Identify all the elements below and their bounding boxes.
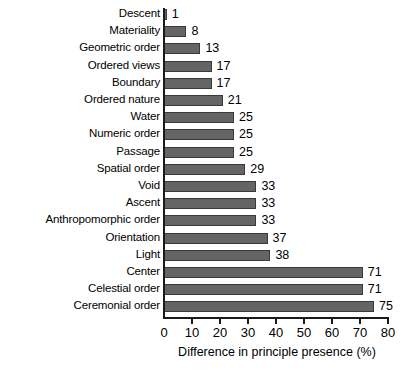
bar-row: 17 <box>164 61 388 72</box>
category-label: Center <box>0 266 160 277</box>
category-label: Materiality <box>0 25 160 36</box>
x-axis-tick <box>387 319 389 324</box>
x-axis-tick-label: 10 <box>177 325 207 340</box>
bar-value-label: 75 <box>379 300 393 313</box>
bar-value-label: 33 <box>261 197 275 210</box>
category-label: Orientation <box>0 232 160 243</box>
category-label: Spatial order <box>0 163 160 174</box>
bar-row: 8 <box>164 26 388 37</box>
x-axis-tick-label: 40 <box>261 325 291 340</box>
bar-row: 71 <box>164 284 388 295</box>
bar <box>164 250 270 261</box>
x-axis-tick <box>219 319 221 324</box>
bar <box>164 78 212 89</box>
bar <box>164 284 363 295</box>
plot-area: 1813171721252525293333333738717175 <box>164 8 388 318</box>
x-axis-tick <box>191 319 193 324</box>
x-axis-tick <box>247 319 249 324</box>
x-axis-tick <box>303 319 305 324</box>
category-label: Descent <box>0 8 160 19</box>
category-label: Numeric order <box>0 128 160 139</box>
bar-row: 75 <box>164 301 388 312</box>
x-axis-tick <box>359 319 361 324</box>
x-axis-tick <box>331 319 333 324</box>
bar <box>164 61 212 72</box>
category-label: Void <box>0 180 160 191</box>
category-axis: DescentMaterialityGeometric orderOrdered… <box>0 8 160 318</box>
bar-value-label: 13 <box>205 42 219 55</box>
bar-row: 29 <box>164 164 388 175</box>
bar <box>164 112 234 123</box>
bar-row: 25 <box>164 112 388 123</box>
category-label: Celestial order <box>0 283 160 294</box>
x-axis-tick-label: 80 <box>373 325 403 340</box>
bar-row: 25 <box>164 129 388 140</box>
category-label: Boundary <box>0 77 160 88</box>
x-axis-tick-label: 70 <box>345 325 375 340</box>
bar-value-label: 37 <box>273 232 287 245</box>
bar-row: 13 <box>164 43 388 54</box>
bar-row: 33 <box>164 181 388 192</box>
x-axis-tick-label: 30 <box>233 325 263 340</box>
bar-row: 17 <box>164 78 388 89</box>
bar-row: 33 <box>164 198 388 209</box>
x-axis-tick-label: 0 <box>149 325 179 340</box>
bar <box>164 233 268 244</box>
bar <box>164 129 234 140</box>
category-label: Ordered nature <box>0 94 160 105</box>
bar-value-label: 29 <box>250 163 264 176</box>
bar-row: 37 <box>164 233 388 244</box>
bar <box>164 164 245 175</box>
category-label: Passage <box>0 146 160 157</box>
x-axis-tick-label: 60 <box>317 325 347 340</box>
bar-value-label: 21 <box>228 94 242 107</box>
bar <box>164 215 256 226</box>
bar-row: 21 <box>164 95 388 106</box>
category-label: Water <box>0 111 160 122</box>
bar-value-label: 33 <box>261 180 275 193</box>
bar-value-label: 25 <box>239 128 253 141</box>
bar <box>164 181 256 192</box>
bar-chart: DescentMaterialityGeometric orderOrdered… <box>0 0 408 378</box>
category-label: Light <box>0 249 160 260</box>
bar-value-label: 25 <box>239 111 253 124</box>
bar-value-label: 17 <box>217 77 231 90</box>
y-axis-line <box>163 8 165 319</box>
bar-value-label: 25 <box>239 146 253 159</box>
bar-value-label: 8 <box>191 25 198 38</box>
bar-value-label: 71 <box>368 266 382 279</box>
category-label: Anthropomorphic order <box>0 214 160 225</box>
bar-row: 1 <box>164 9 388 20</box>
bar <box>164 95 223 106</box>
bar-row: 25 <box>164 147 388 158</box>
bar <box>164 301 374 312</box>
bar <box>164 267 363 278</box>
bar <box>164 43 200 54</box>
category-label: Ceremonial order <box>0 300 160 311</box>
bar-row: 33 <box>164 215 388 226</box>
x-axis-title: Difference in principle presence (%) <box>164 345 390 359</box>
bar <box>164 26 186 37</box>
category-label: Ascent <box>0 197 160 208</box>
bar-value-label: 38 <box>275 249 289 262</box>
x-axis-tick-label: 50 <box>289 325 319 340</box>
category-label: Geometric order <box>0 42 160 53</box>
bar <box>164 147 234 158</box>
bar <box>164 198 256 209</box>
x-axis-tick <box>275 319 277 324</box>
category-label: Ordered views <box>0 60 160 71</box>
bar-value-label: 33 <box>261 214 275 227</box>
bar-value-label: 1 <box>172 8 179 21</box>
bar-row: 71 <box>164 267 388 278</box>
bar-value-label: 17 <box>217 60 231 73</box>
x-axis-tick-label: 20 <box>205 325 235 340</box>
bar-value-label: 71 <box>368 283 382 296</box>
bar-row: 38 <box>164 250 388 261</box>
